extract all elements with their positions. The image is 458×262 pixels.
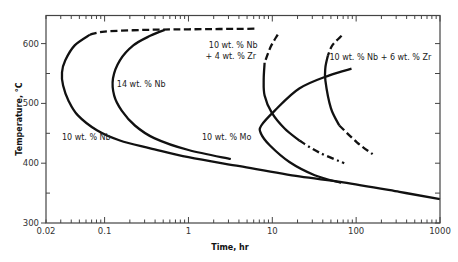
ttt-chart: 0.020.11101001000 300400500600 10 wt. % … xyxy=(0,0,458,262)
x-tick-label: 1 xyxy=(186,226,191,236)
curve-label: 10 wt. % Nb xyxy=(62,133,111,142)
y-tick-label: 600 xyxy=(23,39,39,49)
y-tick-labels: 300400500600 xyxy=(23,39,39,228)
curve-annotations: 10 wt. % Nb14 wt. % Nb10 wt. % Nb+ 4 wt.… xyxy=(62,41,432,142)
curve-segment-dashed xyxy=(265,35,278,63)
y-tick-label: 500 xyxy=(23,98,39,108)
curve-label: 10 wt. % Nb + 6 wt. % Zr xyxy=(329,53,432,62)
x-tick-label: 10 xyxy=(267,226,278,236)
series-10-wt-mo xyxy=(260,69,352,183)
x-axis-title: Time, hr xyxy=(211,243,248,252)
x-tick-label: 0.1 xyxy=(98,226,112,236)
curve-segment-solid xyxy=(264,63,300,141)
curve-label: + 4 wt. % Zr xyxy=(206,52,257,61)
curve-segment-dashdot xyxy=(299,141,344,164)
y-axis-title: Temperature, °C xyxy=(15,82,24,155)
x-tick-label: 0.02 xyxy=(37,226,56,236)
curve-segment-solid xyxy=(325,56,339,126)
curve-label: 14 wt. % Nb xyxy=(117,80,166,89)
y-tick-label: 400 xyxy=(23,158,39,168)
x-tick-label: 100 xyxy=(348,226,364,236)
curve-label: 10 wt. % Nb xyxy=(209,41,258,50)
y-tick-label: 300 xyxy=(23,218,39,228)
x-tick-label: 1000 xyxy=(429,226,451,236)
x-tick-labels: 0.020.11101001000 xyxy=(37,226,451,236)
curve-label: 10 wt. % Mo xyxy=(202,133,252,142)
curve-segment-dashed xyxy=(90,29,257,35)
curve-segment-solid xyxy=(260,69,352,183)
curve-segment-dashed xyxy=(339,126,372,155)
